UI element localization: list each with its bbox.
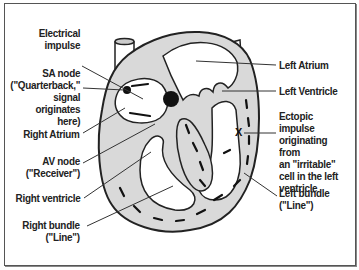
ectopic-marker: X (235, 126, 243, 138)
label-right-ventricle: Right ventricle (15, 192, 80, 204)
label-left-ventricle: Left Ventricle (279, 85, 338, 97)
label-right-atrium: Right Atrium (24, 128, 80, 140)
label-av-node: AV node ("Receiver") (26, 155, 80, 179)
av-node-dot (163, 91, 179, 107)
label-left-bundle: Left bundle ("Line") (279, 187, 329, 211)
label-ectopic-impulse: Ectopic impulse originating from an "irr… (279, 110, 348, 194)
label-left-atrium: Left Atrium (279, 59, 329, 71)
label-right-bundle: Right bundle ("Line") (23, 219, 80, 243)
label-sa-node: SA node ("Quarterback," signal originate… (10, 67, 80, 127)
label-electrical-impulse: Electrical impulse (39, 27, 80, 51)
